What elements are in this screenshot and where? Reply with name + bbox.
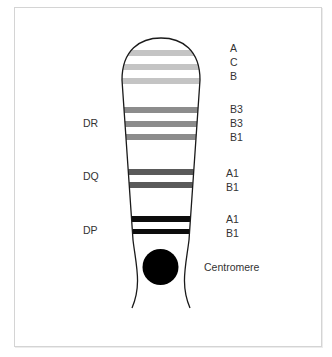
label-band-dq-a1: A1 — [226, 167, 239, 179]
label-band-dp-b1: B1 — [226, 227, 239, 239]
band-dr-b1 — [118, 134, 208, 140]
band-group — [118, 50, 208, 234]
label-band-dr-b1: B1 — [230, 131, 243, 143]
band-top-c — [118, 64, 208, 70]
label-dr: DR — [83, 117, 98, 129]
label-band-b: B — [230, 70, 237, 82]
band-top-b — [118, 78, 208, 84]
label-band-dr-b3-2: B3 — [230, 117, 243, 129]
label-dp: DP — [83, 224, 98, 236]
centromere — [143, 249, 179, 285]
label-band-c: C — [230, 56, 238, 68]
band-dr-b3-2 — [118, 121, 208, 127]
band-dr-b3-1 — [118, 107, 208, 113]
chromosome-diagram — [0, 0, 332, 357]
label-band-dq-b1: B1 — [226, 181, 239, 193]
label-dq: DQ — [83, 170, 99, 182]
band-dp-b1 — [118, 229, 208, 234]
chromosome-lower-right-edge — [184, 240, 190, 308]
chromosome-lower-left-edge — [132, 240, 138, 308]
label-centromere: Centromere — [204, 261, 259, 273]
label-band-dp-a1: A1 — [226, 213, 239, 225]
label-band-a: A — [230, 42, 237, 54]
label-band-dr-b3-1: B3 — [230, 103, 243, 115]
band-dq-b1 — [118, 182, 208, 188]
band-dq-a1 — [118, 169, 208, 175]
